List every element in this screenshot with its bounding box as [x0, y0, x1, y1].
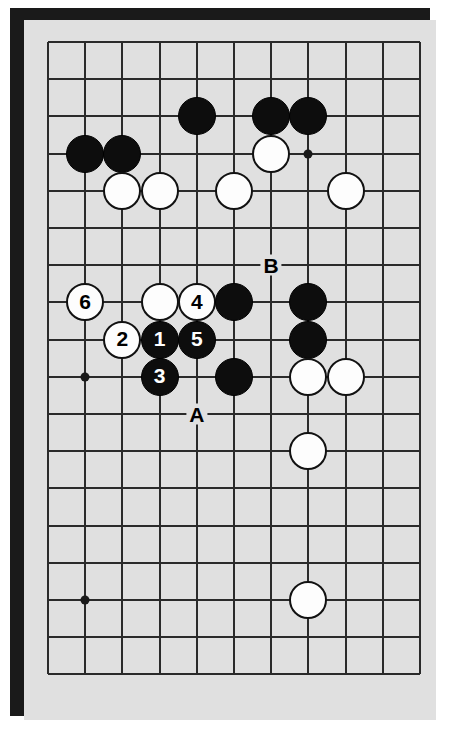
star-point: [81, 372, 90, 381]
stone-white-move-6[interactable]: 6: [66, 283, 104, 321]
move-number: 2: [117, 328, 129, 349]
stone-white[interactable]: [141, 172, 179, 210]
stone-black[interactable]: [178, 97, 216, 135]
stone-white[interactable]: [141, 283, 179, 321]
stone-black[interactable]: [215, 283, 253, 321]
go-board[interactable]: 642153 BA: [24, 20, 436, 720]
board-frame: 642153 BA: [10, 8, 430, 716]
move-number: 4: [191, 291, 203, 312]
point-label-b: B: [261, 255, 282, 276]
stone-white-move-2[interactable]: 2: [103, 321, 141, 359]
star-point: [304, 149, 313, 158]
move-number: 1: [154, 328, 166, 349]
go-diagram: 642153 BA: [0, 0, 450, 729]
stone-white[interactable]: [289, 358, 327, 396]
grid-line-vertical: [419, 42, 421, 674]
stone-black[interactable]: [289, 283, 327, 321]
grid-line-vertical: [382, 42, 384, 674]
stone-white[interactable]: [289, 581, 327, 619]
point-label-a: A: [186, 404, 207, 425]
stone-white[interactable]: [103, 172, 141, 210]
stone-black[interactable]: [103, 135, 141, 173]
stone-white-move-4[interactable]: 4: [178, 283, 216, 321]
stone-black[interactable]: [215, 358, 253, 396]
stone-white[interactable]: [215, 172, 253, 210]
stone-black-move-3[interactable]: 3: [141, 358, 179, 396]
stone-white[interactable]: [327, 172, 365, 210]
stone-black[interactable]: [252, 97, 290, 135]
stone-black[interactable]: [289, 97, 327, 135]
stone-black-move-5[interactable]: 5: [178, 321, 216, 359]
move-number: 6: [79, 291, 91, 312]
stone-black[interactable]: [66, 135, 104, 173]
stone-white[interactable]: [252, 135, 290, 173]
stone-black-move-1[interactable]: 1: [141, 321, 179, 359]
move-number: 5: [191, 328, 203, 349]
move-number: 3: [154, 365, 166, 386]
star-point: [81, 596, 90, 605]
stone-white[interactable]: [289, 432, 327, 470]
grid-line-vertical: [47, 42, 49, 674]
stone-black[interactable]: [289, 321, 327, 359]
stone-white[interactable]: [327, 358, 365, 396]
